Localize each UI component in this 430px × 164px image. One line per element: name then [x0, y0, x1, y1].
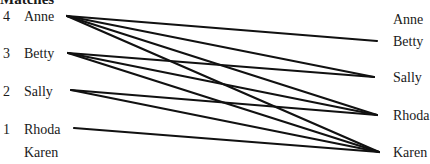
edge-betty-rhoda — [68, 53, 377, 115]
edge-sally-rhoda — [71, 90, 377, 115]
edge-sally-karen — [71, 90, 379, 152]
edge-betty-sally — [68, 53, 374, 77]
